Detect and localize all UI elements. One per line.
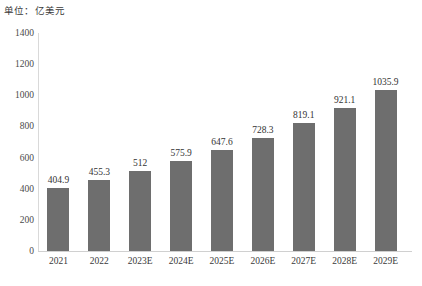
bar-chart: 单位：亿美元 0200400600800100012001400 404.945…: [0, 0, 422, 286]
x-axis-tick: 2029E: [365, 256, 406, 266]
x-axis-tick-labels: 202120222023E2024E2025E2026E2027E2028E20…: [38, 0, 406, 286]
y-axis-tick: 0: [2, 246, 34, 256]
y-axis-tick: 800: [2, 121, 34, 131]
x-axis-tick: 2026E: [242, 256, 283, 266]
x-axis-tick: 2027E: [283, 256, 324, 266]
x-axis-tick: 2021: [38, 256, 79, 266]
y-axis-tick-labels: 0200400600800100012001400: [0, 0, 34, 286]
x-axis-tick: 2024E: [161, 256, 202, 266]
y-axis-tick: 200: [2, 215, 34, 225]
y-axis-tick: 400: [2, 184, 34, 194]
y-axis-tick: 1400: [2, 28, 34, 38]
x-axis-tick: 2023E: [120, 256, 161, 266]
x-axis-tick: 2025E: [202, 256, 243, 266]
x-axis-tick: 2028E: [324, 256, 365, 266]
y-axis-tick: 1000: [2, 90, 34, 100]
x-axis-tick: 2022: [79, 256, 120, 266]
y-axis-tick: 1200: [2, 59, 34, 69]
y-axis-tick: 600: [2, 153, 34, 163]
